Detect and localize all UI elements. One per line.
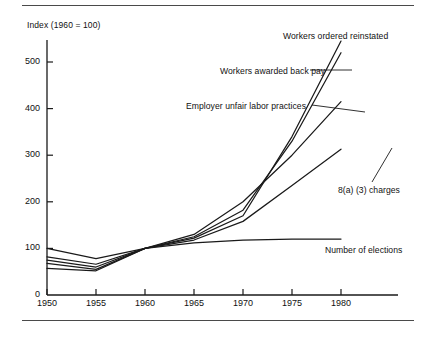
series-label-4: Number of elections [325,245,402,255]
series-label-1: Workers awarded back pay [220,66,325,76]
line-chart-plot [0,0,421,338]
x-axis-ticks [47,289,341,295]
x-tick-label: 1970 [233,298,253,308]
y-tick-label: 500 [14,56,40,66]
series-label-0: Workers ordered reinstated [283,31,388,41]
series-line-3 [47,149,341,269]
series-label-3: 8(a) (3) charges [338,185,400,195]
leader-line-1 [312,105,365,112]
x-tick-label: 1980 [331,298,351,308]
series-label-2: Employer unfair labor practices [186,101,306,111]
y-tick-label: 200 [14,196,40,206]
y-tick-label: 300 [14,149,40,159]
x-tick-label: 1950 [37,298,57,308]
figure-container: Index (1960 = 100) 0100200300400500 1950… [0,0,421,338]
y-tick-label: 400 [14,103,40,113]
y-axis-ticks [47,62,53,248]
x-tick-label: 1965 [184,298,204,308]
series-line-4 [47,239,341,259]
leader-line-2 [372,148,392,182]
x-tick-label: 1960 [135,298,155,308]
chart-svg [0,0,421,338]
y-tick-label: 100 [14,242,40,252]
x-tick-label: 1975 [282,298,302,308]
chart-axes [47,40,398,295]
x-tick-label: 1955 [86,298,106,308]
